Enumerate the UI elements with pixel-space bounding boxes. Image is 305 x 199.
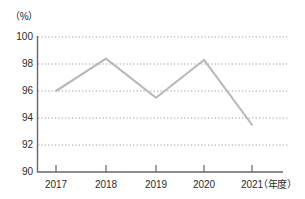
x-axis-ticks (56, 165, 252, 172)
data-series-line (56, 59, 252, 125)
line-chart: （%） 100 98 96 94 92 90 2017 2018 2019 20… (0, 0, 305, 199)
plot-area (0, 0, 305, 199)
